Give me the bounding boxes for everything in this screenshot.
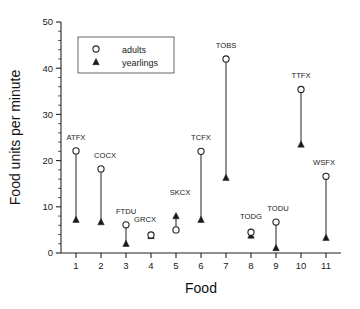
marker-yearling [173,213,179,219]
y-tick-label: 50 [42,16,53,27]
marker-adult [98,166,104,172]
y-tick-label: 20 [42,155,53,166]
marker-yearling [323,234,329,240]
marker-yearling [298,141,304,147]
scatter-plot-canvas: 010203040501234567891011 ATFXCOCXFTDUGRC… [0,0,360,309]
marker-yearling [223,174,229,180]
plot-legend: adultsyearlings [78,37,174,73]
y-tick-label: 40 [42,63,53,74]
marker-adult [323,173,329,179]
point-label: COCX [94,151,116,160]
legend-box [78,37,174,73]
chart-figure: 010203040501234567891011 ATFXCOCXFTDUGRC… [0,0,360,309]
y-tick-label: 30 [42,109,53,120]
marker-adult [73,148,79,154]
point-label: WSFX [313,158,335,167]
marker-adult [273,219,279,225]
x-tick-label: 3 [123,260,128,271]
x-tick-label: 2 [98,260,103,271]
point-label: ATFX [67,133,86,142]
y-tick-label: 0 [48,247,53,258]
marker-yearling [98,219,104,225]
legend-label-yearlings: yearlings [122,58,159,68]
x-axis-title: Food [185,280,217,296]
marker-adult [248,229,254,235]
marker-yearling [123,240,129,246]
marker-yearling [273,244,279,250]
point-label: TTFX [292,71,311,80]
marker-adult [298,86,304,92]
marker-adult [223,56,229,62]
point-label: TODU [267,204,288,213]
x-tick-label: 8 [248,260,253,271]
x-tick-label: 5 [173,260,178,271]
y-tick-label: 10 [42,201,53,212]
marker-adult [123,222,129,228]
marker-yearling [73,216,79,222]
axis-titles: FoodFood units per minute [7,70,217,296]
x-tick-label: 1 [73,260,78,271]
x-tick-label: 11 [321,260,331,271]
marker-adult [148,232,154,238]
point-label: SKCX [170,188,191,197]
legend-marker-adults [93,46,99,52]
marker-adult [198,148,204,154]
marker-yearling [198,216,204,222]
x-tick-label: 6 [198,260,203,271]
point-label: TODG [240,212,262,221]
x-tick-label: 4 [148,260,153,271]
x-tick-label: 9 [273,260,278,271]
legend-label-adults: adults [122,45,147,55]
x-tick-label: 10 [296,260,307,271]
point-label: TOBS [216,41,237,50]
point-label: TCFX [191,133,211,142]
marker-adult [173,227,179,233]
y-axis-title: Food units per minute [7,70,23,206]
x-tick-label: 7 [223,260,228,271]
point-label: GRCX [134,215,156,224]
